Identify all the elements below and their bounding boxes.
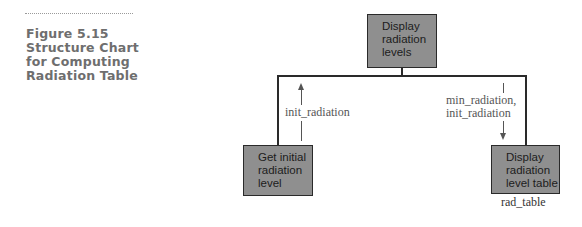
module-name: rad_table xyxy=(501,195,546,210)
arrow-down-icon xyxy=(500,133,506,140)
caption-line: Figure 5.15 xyxy=(26,27,146,41)
flow-label: init_radiation xyxy=(446,107,511,120)
flow-arrow-line xyxy=(301,121,302,141)
child-module-box-get-initial: Get initial radiation level xyxy=(243,145,313,196)
module-label: Get initial xyxy=(258,151,312,164)
module-label: level xyxy=(258,177,312,190)
caption-line: Structure Chart xyxy=(26,41,146,55)
module-label: radiation xyxy=(258,164,312,177)
module-label: radiation xyxy=(382,33,436,46)
caption-line: for Computing xyxy=(26,55,146,69)
module-label: radiation xyxy=(506,164,559,177)
flow-arrow-line xyxy=(301,89,302,105)
module-label: levels xyxy=(382,46,436,59)
root-module-box: Display radiation levels xyxy=(367,14,437,68)
left-branch-line xyxy=(277,75,279,146)
caption-divider xyxy=(25,13,133,14)
flow-arrow-line xyxy=(503,83,504,93)
flow-label: init_radiation xyxy=(285,106,350,119)
module-label: Display xyxy=(506,151,559,164)
flow-arrow-line xyxy=(503,121,504,133)
caption-line: Radiation Table xyxy=(26,69,146,83)
right-branch-line xyxy=(525,75,527,146)
module-label: Display xyxy=(382,20,436,33)
module-label: level table xyxy=(506,177,559,190)
horizontal-connector xyxy=(277,75,526,77)
figure-caption: Figure 5.15 Structure Chart for Computin… xyxy=(26,27,146,83)
child-module-box-display-table: Display radiation level table xyxy=(491,145,560,194)
